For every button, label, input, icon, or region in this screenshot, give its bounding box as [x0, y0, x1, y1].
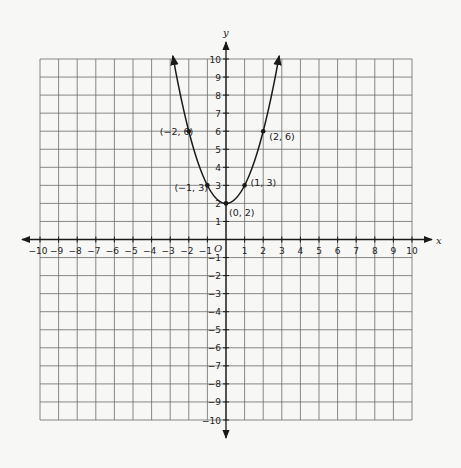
y-tick-label: −6	[208, 343, 222, 353]
x-tick-label: 2	[260, 246, 266, 256]
x-tick-label: 1	[242, 246, 248, 256]
point-label: (1, 3)	[251, 177, 277, 188]
data-point	[242, 183, 247, 188]
y-tick-label: 10	[210, 55, 222, 65]
x-tick-label: −9	[50, 246, 64, 256]
x-tick-label: 3	[279, 246, 285, 256]
y-tick-label: −2	[208, 271, 221, 281]
y-tick-label: 4	[215, 163, 221, 173]
y-tick-label: 1	[215, 217, 221, 227]
y-tick-label: −4	[208, 307, 222, 317]
x-tick-label: −6	[106, 246, 120, 256]
y-tick-label: −5	[208, 325, 221, 335]
x-axis-label: x	[436, 235, 442, 246]
y-tick-label: −3	[208, 289, 221, 299]
point-label: (0, 2)	[229, 207, 255, 218]
x-tick-label: −2	[180, 246, 193, 256]
point-label: (−2, 6)	[160, 126, 194, 137]
y-tick-label: −1	[208, 253, 221, 263]
y-tick-label: −10	[202, 416, 221, 426]
y-tick-label: 7	[215, 109, 221, 119]
coordinate-plane-figure: xyO−10−9−8−7−6−5−4−3−2−112345678910−10−9…	[0, 0, 461, 468]
x-tick-label: −7	[87, 246, 100, 256]
x-tick-label: 8	[372, 246, 378, 256]
y-tick-label: −7	[208, 361, 221, 371]
x-tick-label: 4	[298, 246, 304, 256]
x-tick-label: 7	[353, 246, 359, 256]
x-tick-label: 5	[316, 246, 322, 256]
x-tick-label: −3	[162, 246, 175, 256]
point-label: (2, 6)	[269, 131, 295, 142]
x-tick-label: −4	[143, 246, 157, 256]
data-point	[261, 129, 266, 134]
y-tick-label: 3	[215, 181, 221, 191]
y-tick-label: 9	[215, 73, 221, 83]
point-label: (−1, 3)	[174, 182, 208, 193]
y-tick-label: −9	[208, 397, 222, 407]
y-tick-label: −8	[208, 379, 222, 389]
origin-label: O	[214, 243, 222, 254]
y-axis-label: y	[222, 27, 229, 38]
parabola-graph: xyO−10−9−8−7−6−5−4−3−2−112345678910−10−9…	[0, 0, 461, 468]
x-tick-label: −10	[29, 246, 48, 256]
x-tick-label: 9	[391, 246, 397, 256]
x-tick-label: −5	[124, 246, 137, 256]
x-tick-label: 10	[406, 246, 418, 256]
x-tick-label: −8	[69, 246, 83, 256]
y-tick-label: 5	[215, 145, 221, 155]
y-tick-label: 8	[215, 91, 221, 101]
x-tick-label: 6	[335, 246, 341, 256]
y-tick-label: 6	[215, 127, 221, 137]
data-point	[224, 201, 229, 206]
